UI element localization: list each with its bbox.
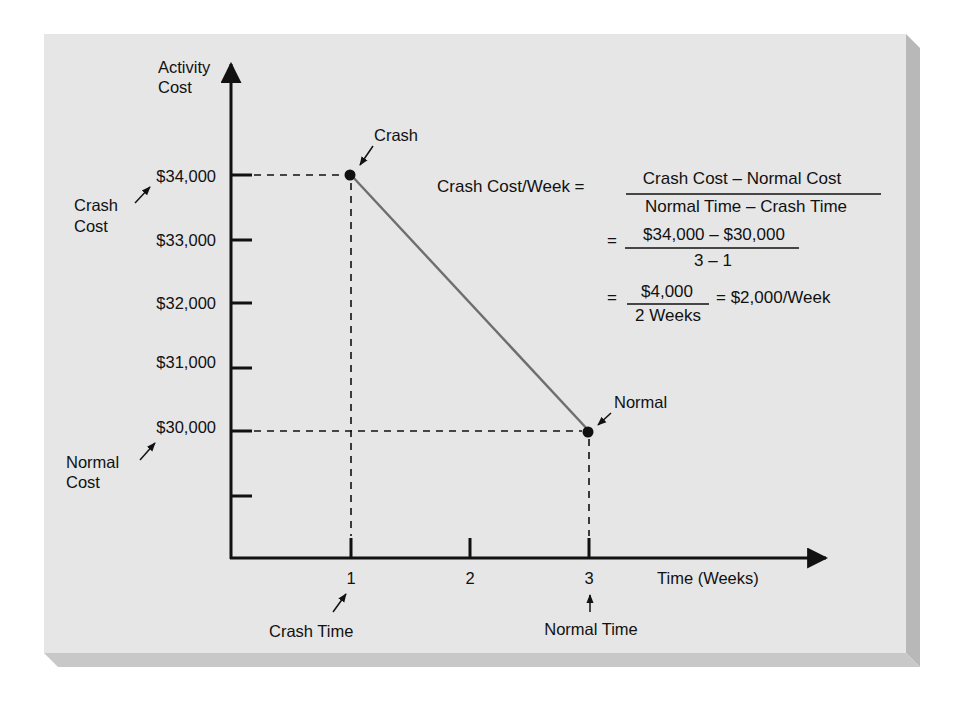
normal-point-arrow-icon bbox=[598, 413, 611, 425]
formula-lhs: Crash Cost/Week = bbox=[437, 177, 585, 196]
formula-denominator-2: 3 – 1 bbox=[694, 251, 732, 270]
normal-cost-arrow-icon bbox=[140, 443, 155, 460]
guide-lines bbox=[254, 175, 589, 536]
y-ticks bbox=[231, 175, 252, 496]
formula-denominator-3: 2 Weeks bbox=[635, 306, 701, 325]
x-tick-label: 2 bbox=[465, 569, 474, 587]
crash-normal-line bbox=[351, 175, 589, 431]
formula-numerator-2: $34,000 – $30,000 bbox=[643, 225, 785, 244]
crash-point-label: Crash bbox=[374, 126, 418, 144]
cost-time-chart: Activity Cost Time (Weeks) $34,000 $33,0… bbox=[0, 0, 957, 704]
y-axis-title-line1: Activity bbox=[158, 58, 211, 76]
crash-time-arrow-icon bbox=[333, 594, 346, 612]
normal-time-label: Normal Time bbox=[544, 620, 638, 638]
crash-cost-arrow-icon bbox=[135, 187, 150, 203]
normal-point bbox=[583, 427, 594, 438]
formula-result: = $2,000/Week bbox=[716, 288, 831, 307]
formula-equals-3: = bbox=[607, 288, 617, 307]
x-ticks bbox=[351, 538, 589, 558]
formula-equals-2: = bbox=[607, 231, 617, 250]
crash-point bbox=[345, 170, 356, 181]
x-axis-title: Time (Weeks) bbox=[657, 569, 759, 587]
y-tick-label: $34,000 bbox=[156, 167, 216, 185]
normal-point-label: Normal bbox=[614, 393, 667, 411]
formula-denominator-1: Normal Time – Crash Time bbox=[645, 197, 847, 216]
y-tick-label: $33,000 bbox=[156, 231, 216, 249]
y-axis-title-line2: Cost bbox=[158, 78, 192, 96]
x-tick-label: 3 bbox=[584, 569, 593, 587]
y-tick-label: $31,000 bbox=[156, 353, 216, 371]
x-tick-label: 1 bbox=[346, 569, 355, 587]
normal-cost-label-line2: Cost bbox=[66, 473, 100, 491]
panel-bevel-bottom bbox=[44, 653, 920, 667]
panel-bevel-right bbox=[906, 34, 920, 667]
formula-numerator-1: Crash Cost – Normal Cost bbox=[643, 169, 842, 188]
crash-cost-label-line2: Cost bbox=[74, 217, 108, 235]
normal-cost-label-line1: Normal bbox=[66, 453, 119, 471]
y-tick-label: $32,000 bbox=[156, 294, 216, 312]
crash-cost-label-line1: Crash bbox=[74, 196, 118, 214]
crash-time-label: Crash Time bbox=[269, 622, 353, 640]
y-tick-label: $30,000 bbox=[156, 418, 216, 436]
formula-numerator-3: $4,000 bbox=[641, 282, 693, 301]
crash-cost-formula: Crash Cost/Week = Crash Cost – Normal Co… bbox=[437, 169, 881, 325]
crash-point-arrow-icon bbox=[360, 146, 373, 165]
